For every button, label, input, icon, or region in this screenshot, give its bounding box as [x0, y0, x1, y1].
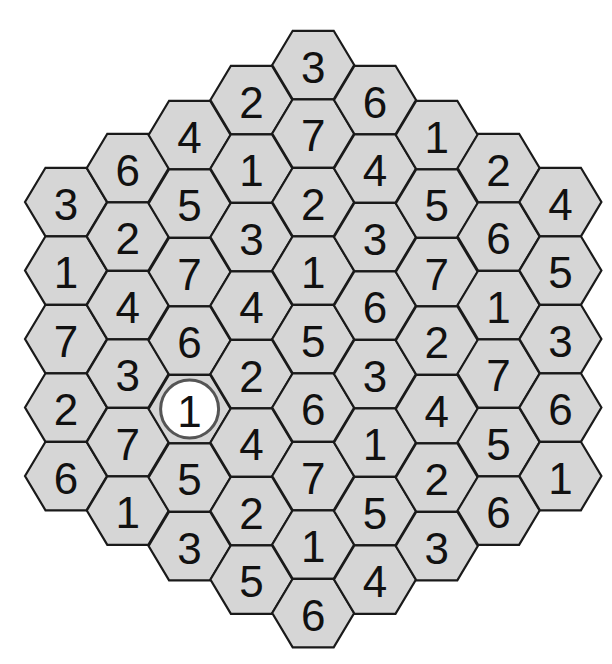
- cell-number: 4: [177, 113, 201, 162]
- cell-number: 6: [54, 454, 78, 503]
- cell-number: 1: [239, 146, 263, 195]
- cell-number: 1: [116, 488, 140, 537]
- cell-number: 3: [239, 215, 263, 264]
- cell-number: 7: [425, 250, 449, 299]
- cell-number: 5: [363, 489, 387, 538]
- cell-number: 2: [425, 455, 449, 504]
- cell-number: 5: [486, 420, 510, 469]
- cell-number: 7: [116, 420, 140, 469]
- cell-number: 6: [116, 146, 140, 195]
- cell-number: 5: [177, 181, 201, 230]
- cell-number: 7: [177, 250, 201, 299]
- cell-number: 2: [54, 385, 78, 434]
- cell-number: 1: [177, 387, 201, 436]
- cell-number: 6: [301, 591, 325, 640]
- cell-number: 7: [486, 351, 510, 400]
- cell-number: 6: [363, 283, 387, 332]
- cell-number: 4: [363, 146, 387, 195]
- cell-number: 5: [177, 455, 201, 504]
- cell-number: 3: [425, 524, 449, 573]
- cell-number: 1: [54, 248, 78, 297]
- cell-number: 6: [486, 488, 510, 537]
- cell-number: 6: [548, 385, 572, 434]
- cell-number: 2: [239, 78, 263, 127]
- cell-number: 6: [486, 214, 510, 263]
- cell-number: 3: [54, 180, 78, 229]
- cell-number: 2: [239, 352, 263, 401]
- cell-number: 1: [548, 454, 572, 503]
- cell-number: 5: [301, 317, 325, 366]
- cell-number: 6: [301, 385, 325, 434]
- cell-number: 4: [239, 283, 263, 332]
- cell-number: 4: [425, 387, 449, 436]
- hex-puzzle-board: 3172662437145761532134242537215671664363…: [0, 0, 612, 664]
- cell-number: 2: [425, 318, 449, 367]
- cell-number: 5: [548, 248, 572, 297]
- cell-number: 7: [301, 454, 325, 503]
- cell-number: 4: [239, 420, 263, 469]
- cell-number: 5: [239, 557, 263, 606]
- cell-number: 2: [486, 146, 510, 195]
- cell-number: 1: [363, 420, 387, 469]
- cell-number: 2: [239, 489, 263, 538]
- cell-number: 7: [54, 317, 78, 366]
- cell-number: 3: [363, 352, 387, 401]
- cell-number: 4: [116, 283, 140, 332]
- cell-number: 1: [301, 248, 325, 297]
- cell-number: 3: [116, 351, 140, 400]
- cell-number: 3: [548, 317, 572, 366]
- cell-number: 6: [177, 318, 201, 367]
- cell-number: 4: [548, 180, 572, 229]
- cell-number: 6: [363, 78, 387, 127]
- cell-number: 3: [363, 215, 387, 264]
- cell-number: 1: [425, 113, 449, 162]
- cell-number: 2: [301, 180, 325, 229]
- cell-number: 2: [116, 214, 140, 263]
- cell-number: 1: [486, 283, 510, 332]
- cell-number: 4: [363, 557, 387, 606]
- cell-number: 1: [301, 522, 325, 571]
- cell-number: 5: [425, 181, 449, 230]
- cell-number: 7: [301, 111, 325, 160]
- cell-number: 3: [177, 524, 201, 573]
- cell-number: 3: [301, 43, 325, 92]
